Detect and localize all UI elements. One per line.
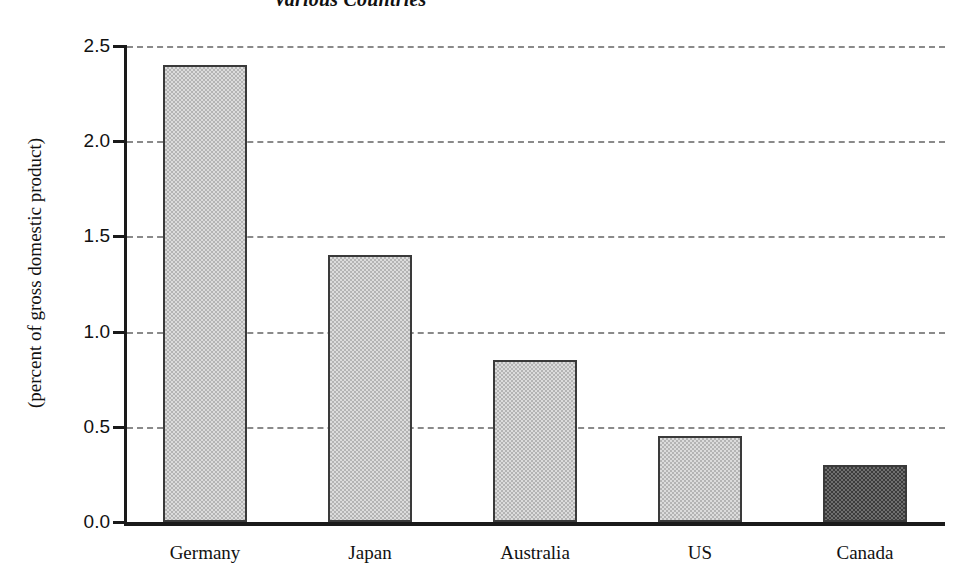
- gridline: [127, 332, 945, 334]
- y-tick-label: 1.5: [84, 225, 110, 247]
- y-tick-mark: [113, 521, 127, 524]
- plot-area: 0.00.51.01.52.02.5: [124, 46, 945, 522]
- gridline: [127, 141, 945, 143]
- chart-figure: Various Countries (percent of gross dome…: [0, 0, 980, 574]
- y-tick-mark: [113, 140, 127, 143]
- bar-canada: [823, 465, 907, 522]
- y-axis-title: (percent of gross domestic product): [24, 53, 46, 493]
- y-tick-mark: [113, 45, 127, 48]
- bar-us: [658, 436, 742, 522]
- bar-australia: [493, 360, 577, 522]
- y-tick-label: 1.0: [84, 320, 110, 342]
- chart-title: Various Countries: [0, 0, 700, 10]
- x-tick-label-us: US: [688, 542, 712, 564]
- x-tick-label-japan: Japan: [348, 542, 391, 564]
- y-tick-label: 2.5: [84, 35, 110, 57]
- gridline: [127, 236, 945, 238]
- bar-japan: [328, 255, 412, 522]
- y-axis-line: [124, 46, 127, 523]
- x-tick-label-canada: Canada: [837, 542, 894, 564]
- x-tick-label-australia: Australia: [500, 542, 570, 564]
- y-tick-mark: [113, 331, 127, 334]
- y-tick-mark: [113, 426, 127, 429]
- y-tick-label: 0.0: [84, 511, 110, 533]
- y-tick-label: 2.0: [84, 130, 110, 152]
- gridline: [127, 46, 945, 48]
- x-tick-label-germany: Germany: [170, 542, 241, 564]
- y-tick-mark: [113, 235, 127, 238]
- bar-germany: [163, 65, 247, 522]
- x-axis-baseline: [124, 522, 945, 526]
- y-tick-label: 0.5: [84, 415, 110, 437]
